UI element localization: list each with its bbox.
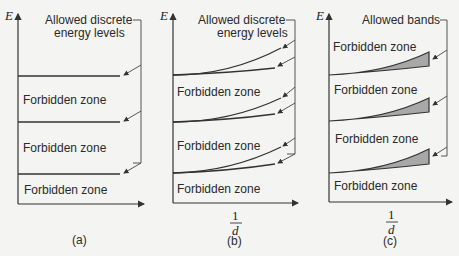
bracket-label-line2: energy levels (54, 26, 125, 40)
pointer-arrow (278, 103, 295, 113)
pointer-arrow (433, 50, 447, 59)
allowed-band (329, 149, 429, 173)
pointer-arrow (283, 138, 295, 146)
pointer-arrow (278, 154, 295, 163)
panel-c: E Allowed bands Forbidden zone Forbidden… (315, 8, 452, 248)
y-axis-label: E (4, 8, 13, 23)
bracket-label-line1: Allowed discrete (45, 13, 133, 27)
pointer-arrow (124, 65, 141, 75)
bracket (440, 20, 447, 156)
pointer-arrow (278, 57, 295, 66)
energy-level-lower (173, 114, 275, 122)
zone-label: Forbidden zone (334, 83, 418, 97)
x-axis-label-numerator: 1 (232, 208, 239, 223)
zone-label: Forbidden zone (333, 40, 417, 54)
pointer-arrow (433, 147, 447, 156)
zone-label: Forbidden zone (23, 141, 107, 155)
zone-label: Forbidden zone (177, 139, 261, 153)
energy-level-upper (173, 48, 281, 75)
bracket (133, 20, 141, 163)
x-axis-label-numerator: 1 (388, 207, 395, 222)
allowed-band (329, 98, 429, 121)
pointer-arrow (124, 163, 141, 173)
bracket-label-line1: Allowed bands (362, 13, 440, 27)
pointer-arrow (283, 40, 295, 48)
zone-label: Forbidden zone (335, 132, 419, 146)
panel-b: E Allowed discrete energy levels Forbidd… (159, 8, 298, 248)
allowed-band (329, 52, 429, 75)
energy-band-diagram: E Allowed discrete energy levels Forbidd… (0, 0, 459, 256)
zone-label: Forbidden zone (23, 93, 107, 107)
pointer-arrow (433, 96, 447, 105)
bracket (286, 20, 295, 154)
zone-label: Forbidden zone (334, 179, 418, 193)
panel-caption: (a) (72, 233, 87, 247)
zone-label: Forbidden zone (177, 182, 261, 196)
y-axis-label: E (315, 8, 324, 23)
panel-caption: (b) (227, 234, 242, 248)
zone-label: Forbidden zone (177, 85, 261, 99)
zone-label: Forbidden zone (24, 183, 108, 197)
panel-a: E Allowed discrete energy levels Forbidd… (4, 8, 144, 247)
panel-caption: (c) (383, 234, 397, 248)
bracket-label-line2: energy levels (217, 26, 288, 40)
pointer-arrow (283, 87, 295, 97)
bracket-label-line1: Allowed discrete (198, 13, 286, 27)
y-axis-label: E (159, 8, 168, 23)
pointer-arrow (124, 111, 141, 121)
